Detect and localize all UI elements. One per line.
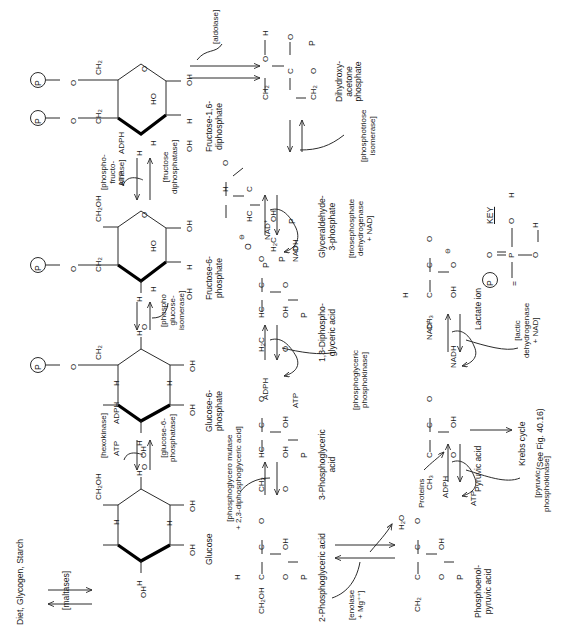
key-atom-o-left: O bbox=[532, 252, 541, 258]
cofactor-adph-hex: ADPH bbox=[113, 402, 122, 424]
atom-ch2oh-f6p: CH2OH bbox=[95, 195, 104, 222]
atom-o-lac-carbonyl: O bbox=[426, 236, 435, 242]
atom-h-f6p-c: H bbox=[136, 296, 145, 302]
atom-ch3-lac: CH3 bbox=[426, 315, 435, 330]
atom-ch3-pyr: CH3 bbox=[426, 475, 435, 490]
charge-negative-lactate: ⊖ bbox=[444, 248, 452, 254]
pep-to-pyruvate-arrows bbox=[424, 444, 520, 496]
fructose16dp-ring bbox=[46, 64, 181, 134]
atom-h-pga2: H bbox=[234, 574, 243, 580]
atom-h-g6p-a: H bbox=[136, 330, 145, 336]
enzyme-phosphoglyceric-phosphokinase: [phosphoglyceric phosphokinase] bbox=[352, 350, 370, 410]
cofactor-atp-hex: ATP bbox=[113, 441, 122, 456]
atom-o-pyr-keto: O bbox=[450, 452, 459, 458]
pga2-to-pep-arrows bbox=[332, 524, 395, 598]
cofactor-adph-ppk: ADPH bbox=[442, 476, 451, 498]
key-atom-o-right: O bbox=[486, 252, 495, 258]
metabolite-fructose-6-phosphate: Fructose-6- phosphate bbox=[205, 256, 224, 300]
enzyme-lactic-dehydrogenase: [lactic dehydrogenase + NAD] bbox=[514, 301, 541, 360]
atom-o-glc-ring: O bbox=[141, 464, 150, 470]
atom-c-pga2-b: C bbox=[258, 574, 267, 580]
atom-hc-g3p: HC bbox=[246, 210, 255, 222]
circle-p-g3p: P bbox=[288, 218, 298, 224]
circle-p-fdp-a: P bbox=[34, 80, 44, 86]
atom-o-pi: O bbox=[244, 243, 254, 250]
dhap-g3p-arrows bbox=[290, 120, 344, 152]
atom-o-dhap-c: O bbox=[310, 68, 319, 74]
atom-h-glc-c: H bbox=[113, 519, 122, 525]
atom-c-pep: C bbox=[414, 544, 423, 550]
key-atom-h-a: H bbox=[532, 222, 541, 228]
metabolite-3-pga: 3-Phosphoglyceric acid bbox=[318, 429, 337, 500]
circle-p-fdp-b: P bbox=[34, 118, 44, 124]
output-krebs-reference: (See Fig. 40.16) bbox=[536, 408, 546, 470]
atom-o-pep-link: O bbox=[438, 574, 447, 580]
atom-h-fdp-c: H bbox=[136, 150, 145, 156]
atom-ch2-fdp-a: CH2 bbox=[95, 60, 104, 75]
atom-oh-glc-c: OH bbox=[140, 586, 149, 598]
atom-oh-f6p-b: OH bbox=[186, 288, 195, 300]
atom-oh-pga2: OH bbox=[282, 538, 291, 550]
enzyme-glucose-6-phosphatase: [glucose-6- phosphatase] bbox=[160, 414, 178, 462]
atom-h-glc-a: H bbox=[136, 470, 145, 476]
metabolite-2-pga: 2-Phosphoglyceric acid bbox=[318, 533, 328, 622]
atom-o-fdp-a: O bbox=[70, 80, 79, 86]
atom-o-g3p-carbonyl: O bbox=[222, 160, 231, 166]
metabolite-lactate-ion: Lactate ion bbox=[474, 288, 484, 330]
enzyme-hexokinase: [hexokinase] bbox=[100, 413, 109, 458]
enzyme-enolase: [enolase + Mg⁺⁺] bbox=[348, 590, 366, 620]
aldolase-arrows bbox=[190, 44, 260, 78]
atom-ch2-dhap-b: CH2 bbox=[310, 85, 319, 100]
circle-p-pga3: P bbox=[300, 452, 310, 458]
atom-oh-fdp-a: OH bbox=[186, 74, 195, 86]
metabolite-g3p: Glyceraldehyde- 3-phosphate bbox=[318, 195, 337, 258]
atom-c-pga3: C bbox=[258, 422, 267, 428]
atom-h-fdp-b: H bbox=[150, 140, 159, 146]
atom-o-pyr-carbonyl: O bbox=[426, 396, 435, 402]
atom-oh-f6p-a: OH bbox=[186, 220, 195, 232]
atom-h-f6p-b: H bbox=[150, 286, 159, 292]
atom-c-pep-b: C bbox=[414, 574, 423, 580]
atom-oh-g6p-a: OH bbox=[189, 360, 198, 372]
atom-h-fdp-a: H bbox=[186, 118, 195, 124]
atom-ho-f6p: HO bbox=[150, 240, 159, 252]
atom-oh-pep: OH bbox=[438, 538, 447, 550]
atom-oh-lac: OH bbox=[450, 286, 459, 298]
metabolite-glucose: Glucose bbox=[205, 533, 215, 565]
circle-p-pi: P bbox=[262, 262, 272, 268]
atom-o-fdp-b: O bbox=[70, 118, 79, 124]
atom-o-f6p-ring: O bbox=[141, 212, 150, 218]
circle-p-dhap: P bbox=[308, 40, 318, 46]
key-atom-h-b: H bbox=[508, 192, 517, 198]
atom-o-g6p-link: O bbox=[70, 364, 79, 370]
atom-h-glc-d: H bbox=[166, 520, 175, 526]
enzyme-aldolase: [aldolase] bbox=[212, 10, 221, 44]
cofactor-nadh-ldh: NADH bbox=[450, 345, 459, 368]
atom-c-pga2: C bbox=[258, 544, 267, 550]
atom-c-pyr-b: C bbox=[426, 452, 435, 458]
atom-o-pga2-carbonyl: O bbox=[258, 518, 267, 524]
charge-negative-pi: ⊖ bbox=[238, 234, 246, 240]
atom-oh-pga3-a: OH bbox=[282, 416, 291, 428]
enzyme-maltases: [maltases] bbox=[62, 571, 72, 610]
atom-o-dhap-a: O bbox=[262, 56, 271, 62]
enzyme-phosphoglycero-mutase: [phosphoglycero mutase + 2,3-diphosphogl… bbox=[226, 426, 244, 530]
atom-c-pyr: C bbox=[426, 422, 435, 428]
atom-o-lac-anion: O bbox=[450, 262, 459, 268]
enzyme-triosephosphate-dehydrogenase: [triosephosphate dehydrogenase + NAD] bbox=[348, 199, 375, 258]
metabolite-dhap: Dihydroxy- acetone phosphate bbox=[335, 61, 364, 102]
key-equals: = bbox=[510, 281, 520, 286]
atom-h-f6p-a: H bbox=[186, 264, 195, 270]
atom-o-pga3-link: O bbox=[282, 486, 291, 492]
atom-oh-pyr: OH bbox=[450, 416, 459, 428]
atom-c-lac: C bbox=[426, 262, 435, 268]
atom-ch2-pga3: CH2 bbox=[258, 477, 267, 492]
product-water: H2O bbox=[398, 515, 407, 530]
metabolite-pep: Phosphoenol- pyruvic acid bbox=[474, 565, 493, 618]
atom-oh-g6p-b: OH bbox=[189, 404, 198, 416]
atom-oh-dpga: OH bbox=[282, 306, 291, 318]
fructose6p-ring bbox=[46, 211, 181, 293]
key-title: KEY bbox=[486, 207, 496, 224]
enzyme-phosphotriose-isomerase: [phosphotriose isomerase] bbox=[360, 110, 378, 162]
atom-h-g6p-b: H bbox=[113, 380, 122, 386]
